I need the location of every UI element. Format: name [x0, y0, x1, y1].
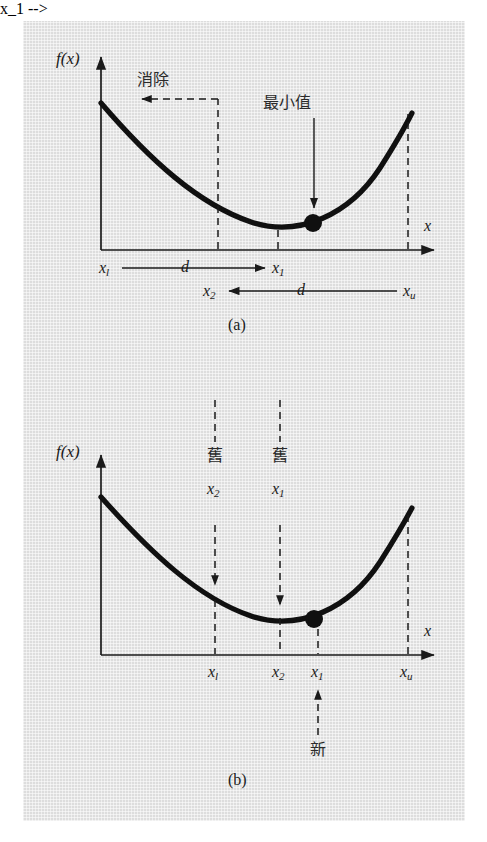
panel-a-distance-top: d: [181, 259, 189, 275]
panel-b-tick-xu-sub: u: [407, 670, 413, 682]
panel-a-tick-xl-sub: l: [106, 266, 109, 278]
panel-a-tick-x1-sub: 1: [279, 266, 285, 278]
panel-b-old-x1-label: 舊: [272, 448, 288, 464]
panel-b-x-axis-label: x: [424, 623, 431, 639]
panel-a-distance-bottom: d: [297, 282, 305, 298]
panel-a-tick-x1: x1: [272, 260, 285, 278]
panel-b-minimum-dot: [305, 610, 323, 628]
panel-b-tick-x2: x2: [272, 664, 285, 682]
panel-b-tick-x2-sub: 2: [279, 670, 285, 682]
panel-b-old-x2-sub: x2: [207, 481, 220, 499]
panel-b-curve: [101, 497, 412, 621]
panel-a-eliminate-label: 消除: [137, 72, 169, 88]
panel-b-tick-xl-sub: l: [215, 670, 218, 682]
panel-a-tick-x2-sub: 2: [210, 289, 216, 301]
panel-a-tick-x2: x2: [203, 283, 216, 301]
figure-vector-layer: [0, 0, 487, 842]
panel-b-tick-xu: xu: [400, 664, 413, 682]
panel-a-curve: [101, 103, 412, 227]
panel-b-old-x1-sub-index: 1: [279, 487, 285, 499]
panel-b-old-x2-label: 舊: [207, 448, 223, 464]
panel-b-caption: (b): [228, 772, 247, 788]
panel-a-y-axis-label: f(x): [56, 50, 80, 67]
panel-b-y-axis-label: f(x): [56, 443, 80, 460]
panel-a-minimum-label: 最小值: [263, 95, 311, 111]
panel-a-caption: (a): [228, 317, 246, 333]
panel-a-tick-xl: xl: [99, 260, 109, 278]
panel-b-old-x1-sub: x1: [272, 481, 285, 499]
panel-b-tick-x1-sub: 1: [318, 670, 324, 682]
panel-a-tick-xu: xu: [403, 283, 416, 301]
panel-a-x-axis-label: x: [424, 218, 431, 234]
panel-b-old-x2-sub-index: 2: [214, 487, 220, 499]
panel-a-tick-xu-sub: u: [410, 289, 416, 301]
figure-page: f(x) 消除 最小值 x x_1 --> xl d x1 x2 d xu (a…: [0, 0, 487, 842]
panel-b-tick-xl: xl: [208, 664, 218, 682]
panel-b-tick-x1: x1: [311, 664, 324, 682]
panel-b-graph: [101, 400, 434, 735]
panel-a-minimum-dot: [304, 214, 322, 232]
panel-b-new-label: 新: [310, 742, 326, 758]
